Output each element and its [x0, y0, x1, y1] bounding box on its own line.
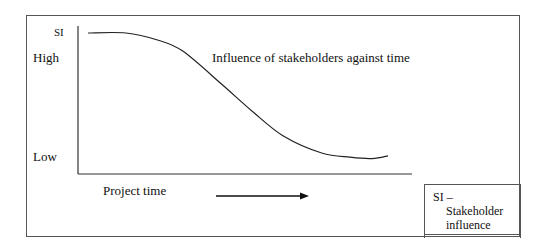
- legend-text-line1: Stakeholder: [446, 204, 503, 219]
- y-axis-low-label: Low: [33, 150, 57, 163]
- diagram-title: Influence of stakeholders against time: [212, 51, 410, 64]
- legend-box: SI – Stakeholder influence: [424, 184, 521, 238]
- legend-abbrev: SI –: [433, 190, 453, 205]
- y-axis-high-label: High: [33, 51, 59, 64]
- legend-bottom-rule: [425, 234, 520, 237]
- legend-text-line2: influence: [446, 218, 491, 233]
- right-arrow-icon: [216, 193, 309, 200]
- x-axis-label: Project time: [103, 184, 166, 197]
- y-axis-abbrev: SI: [54, 27, 64, 38]
